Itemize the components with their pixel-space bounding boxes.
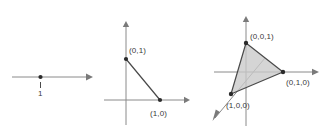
vertex-label-0-0-1: (0,0,1) [250,32,274,41]
y-axis-3d-arrow-icon [213,110,220,122]
vertex-label-1-0: (1,0) [150,109,167,118]
y-axis-arrow-icon [123,21,129,27]
panel-3d: (0,0,1) (0,1,0) (1,0,0) [213,16,320,126]
point-dot-1 [38,75,42,79]
vertex-dot-0-1 [124,57,128,61]
vertex-label-1-0-0: (1,0,0) [226,101,250,110]
vertex-dot-0-1-0 [281,70,285,74]
figure-canvas: 1 (0,1) (1,0) [0,0,326,134]
simplex-figure: 1 (0,1) (1,0) [0,0,326,134]
number-line-arrow-icon [86,74,93,81]
point-label-1: 1 [38,89,43,98]
vertex-dot-1-0-0 [229,92,233,96]
panel-1d: 1 [12,74,93,98]
vertex-dot-1-0 [158,98,162,102]
x-axis-3d-arrow-icon [312,69,319,75]
simplex-segment-2d [126,59,160,100]
panel-2d: (0,1) (1,0) [104,21,190,125]
z-axis-3d-arrow-icon [243,16,249,22]
vertex-label-0-1-0: (0,1,0) [286,78,310,87]
vertex-dot-0-0-1 [244,41,248,45]
vertex-label-0-1: (0,1) [129,46,146,55]
x-axis-arrow-icon [184,97,190,103]
